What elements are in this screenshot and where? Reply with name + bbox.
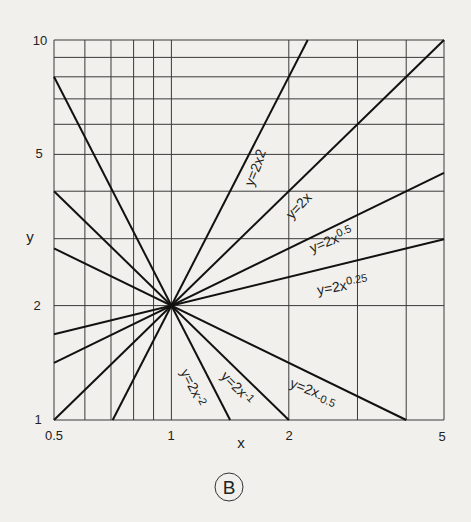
y-axis-label: y [26,228,34,245]
log-log-chart: 0.5 1 2 5 1 2 5 10 x y y=2x2 y=2x y=2x0.… [0,0,471,522]
label-y-2x0.25: y=2x0.25 [315,271,369,298]
y-tick-5: 5 [35,146,42,161]
x-axis-label: x [237,434,245,451]
y-tick-2: 2 [33,298,40,313]
curve-y2x2 [113,40,308,420]
label-y-2x2: y=2x2 [240,147,270,189]
curve-y2x0.5 [54,173,444,363]
panel-badge-letter: B [223,477,236,498]
x-tick-1: 1 [167,428,174,443]
y-tick-1: 1 [34,412,41,427]
curve-y2x-2 [54,77,230,420]
label-y-2x-0.5: y=2x-0.5 [287,375,339,409]
power-curves [54,40,444,420]
x-tick-2: 2 [285,428,292,443]
x-tick-5: 5 [438,429,445,444]
label-y-2x: y=2x [282,189,314,222]
curve-y2x [54,40,444,420]
label-y-2x-1: y=2x-1 [218,368,257,407]
x-tick-0.5: 0.5 [45,428,63,443]
curve-y2x0.25 [54,239,444,334]
y-tick-10: 10 [33,33,47,48]
